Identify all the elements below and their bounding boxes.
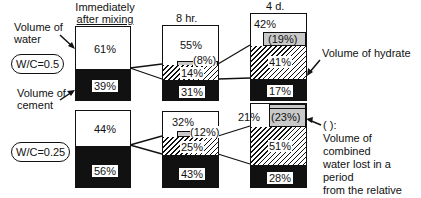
- value-cement: 28%: [266, 171, 294, 185]
- value-water: 55%: [180, 39, 202, 51]
- legend-lost-water: ( ): Volume of combined water lost in a …: [323, 119, 421, 198]
- bar-wc025-8hr: 32% (12%) 25% 43%: [162, 111, 219, 188]
- value-cement: 17%: [266, 84, 294, 98]
- value-lost-water: (12%): [190, 126, 219, 138]
- value-water: 61%: [94, 43, 116, 55]
- value-water: 42%: [254, 18, 276, 30]
- label-volume-of-water: Volume of water: [14, 21, 63, 45]
- value-cement: 43%: [178, 167, 206, 181]
- value-cement: 31%: [178, 85, 206, 99]
- value-cement: 39%: [91, 79, 119, 93]
- header-8hr: 8 hr.: [176, 12, 197, 24]
- arrow-lost-water-icon: [306, 117, 321, 125]
- value-hydrate: 51%: [268, 140, 292, 152]
- value-lost-water: (23%): [271, 111, 300, 123]
- value-lost-water: (8%): [193, 54, 216, 66]
- value-water: 21%: [238, 111, 260, 123]
- bar-wc025-immediate: 44% 56%: [75, 110, 131, 188]
- value-water: 44%: [94, 123, 116, 135]
- value-hydrate: 41%: [268, 56, 292, 68]
- label-volume-of-cement: Volume of cement: [17, 87, 66, 111]
- header-immediate: Immediately after mixing: [74, 1, 136, 25]
- bar-wc05-immediate: 61% 39%: [75, 26, 131, 101]
- arrow-hydrate-icon: [307, 60, 320, 76]
- wc-badge-0.25: W/C=0.25: [11, 142, 70, 162]
- value-hydrate: 25%: [180, 141, 204, 153]
- value-cement: 56%: [91, 164, 119, 178]
- bar-wc025-4d: 21% (23%) 51% 28%: [250, 103, 307, 188]
- bar-wc05-8hr: 55% (8%) 14% 31%: [162, 25, 219, 101]
- bar-wc05-4d: 42% (19%) 41% 17%: [250, 13, 307, 101]
- value-hydrate: 14%: [180, 67, 204, 79]
- header-4d: 4 d.: [266, 0, 284, 12]
- value-lost-water: (19%): [268, 33, 297, 45]
- wc-badge-0.5: W/C=0.5: [11, 54, 64, 74]
- label-volume-of-hydrate: Volume of hydrate: [322, 47, 411, 59]
